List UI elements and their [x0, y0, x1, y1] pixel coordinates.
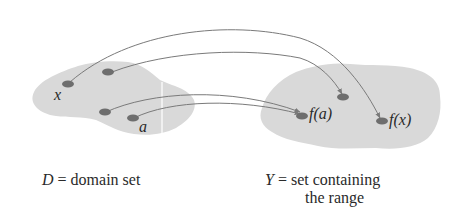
codomain-symbol: Y — [265, 171, 274, 188]
codomain-caption-line1: set containing — [291, 171, 380, 188]
point-fa-dot — [296, 113, 308, 120]
point-fx-dot — [376, 118, 388, 125]
point-p3-dot — [99, 109, 111, 116]
domain-equals: = — [54, 171, 71, 188]
point-x-dot — [62, 81, 74, 88]
point-q2-dot — [337, 94, 349, 101]
label-fx: f(x) — [389, 111, 411, 129]
codomain-caption: Y = set containing the range — [265, 171, 380, 207]
codomain-caption-line2: the range — [305, 189, 364, 206]
domain-caption-text: domain set — [71, 171, 141, 188]
label-fa: f(a) — [309, 105, 332, 123]
codomain-equals: = — [274, 171, 291, 188]
codomain-set-blob — [260, 63, 440, 148]
domain-symbol: D — [42, 171, 54, 188]
domain-caption: D = domain set — [42, 171, 140, 189]
label-a: a — [139, 118, 147, 136]
point-a-dot — [127, 115, 139, 122]
point-p2-dot — [102, 69, 114, 76]
label-x: x — [54, 86, 61, 104]
